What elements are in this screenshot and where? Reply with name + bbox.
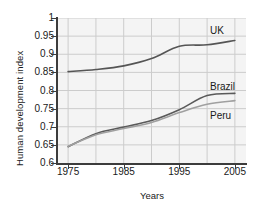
y-tick-label: 1 <box>20 13 54 23</box>
y-tick-mark <box>51 109 57 110</box>
x-tick-mark <box>68 164 69 169</box>
y-tick-mark <box>51 163 57 164</box>
y-tick-label: 0.95 <box>20 31 54 41</box>
series-label-brazil: Brazil <box>210 82 235 92</box>
y-tick-label: 0.75 <box>20 104 54 114</box>
y-tick-mark <box>51 91 57 92</box>
y-tick-mark <box>51 127 57 128</box>
y-axis-tick-labels: 0.60.650.70.750.80.850.90.951 <box>18 0 54 180</box>
x-tick-mark <box>235 164 236 169</box>
y-tick-mark <box>51 18 57 19</box>
y-tick-mark <box>51 54 57 55</box>
y-tick-label: 0.9 <box>20 49 54 59</box>
x-axis-title: Years <box>57 190 247 201</box>
x-tick-mark <box>179 164 180 169</box>
x-tick-mark <box>124 164 125 169</box>
series-label-peru: Peru <box>210 111 231 121</box>
y-tick-label: 0.8 <box>20 86 54 96</box>
y-tick-label: 0.7 <box>20 122 54 132</box>
x-axis-tick-labels: 1975198519952005 <box>0 167 267 181</box>
y-tick-label: 0.85 <box>20 67 54 77</box>
x-axis-line <box>56 163 247 165</box>
y-tick-mark <box>51 72 57 73</box>
series-label-uk: UK <box>210 26 224 36</box>
y-axis-title-container: Human development index <box>0 0 18 175</box>
y-tick-mark <box>51 36 57 37</box>
line-chart: Human development index 0.60.650.70.750.… <box>0 0 267 209</box>
y-tick-mark <box>51 145 57 146</box>
y-tick-label: 0.65 <box>20 140 54 150</box>
